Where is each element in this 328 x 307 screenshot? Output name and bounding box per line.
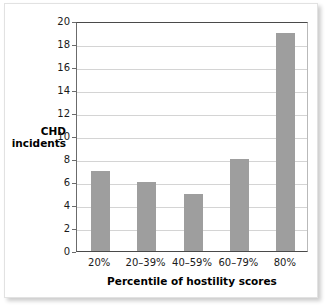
gridline — [77, 115, 307, 116]
y-axis-tick-mark — [72, 137, 76, 138]
y-axis-tick-mark — [72, 68, 76, 69]
gridline — [77, 46, 307, 47]
y-axis-tick-mark — [72, 160, 76, 161]
y-axis-tick-label: 6 — [44, 178, 70, 188]
y-axis-tick-mark — [72, 252, 76, 253]
gridline — [77, 69, 307, 70]
y-axis-tick-label: 8 — [44, 155, 70, 165]
x-axis-title: Percentile of hostility scores — [76, 275, 308, 287]
y-axis-tick-mark — [72, 183, 76, 184]
x-axis-tick-label: 40–59% — [169, 257, 215, 268]
y-axis-tick-mark — [72, 114, 76, 115]
bar — [184, 194, 203, 252]
x-axis-tick-label: 20% — [76, 257, 122, 268]
bar — [137, 182, 156, 251]
y-axis-tick-label: 16 — [44, 63, 70, 73]
y-axis-tick-label: 10 — [44, 132, 70, 142]
y-axis-tick-label: 2 — [44, 224, 70, 234]
gridline — [77, 184, 307, 185]
bar — [91, 171, 110, 252]
y-axis-tick-mark — [72, 229, 76, 230]
bar — [276, 33, 295, 252]
y-axis-tick-mark — [72, 206, 76, 207]
x-axis-tick-label: 80% — [262, 257, 308, 268]
x-axis-tick-label: 60–79% — [215, 257, 261, 268]
y-axis-tick-label: 12 — [44, 109, 70, 119]
y-axis-tick-label: 18 — [44, 40, 70, 50]
y-axis-tick-mark — [72, 45, 76, 46]
y-axis-tick-label: 20 — [44, 17, 70, 27]
plot-area — [76, 22, 308, 252]
x-axis-tick-label: 20–39% — [122, 257, 168, 268]
y-axis-tick-mark — [72, 22, 76, 23]
gridline — [77, 92, 307, 93]
y-axis-tick-label: 4 — [44, 201, 70, 211]
bar — [230, 159, 249, 251]
y-axis-tick-mark — [72, 91, 76, 92]
gridline — [77, 138, 307, 139]
y-axis-tick-label: 14 — [44, 86, 70, 96]
gridline — [77, 161, 307, 162]
y-axis-tick-label: 0 — [44, 247, 70, 257]
